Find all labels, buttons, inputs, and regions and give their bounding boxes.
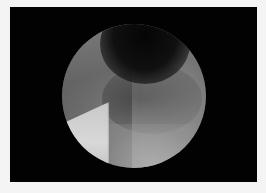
edge-vignette [62, 24, 206, 168]
endoscopic-view [62, 24, 206, 168]
